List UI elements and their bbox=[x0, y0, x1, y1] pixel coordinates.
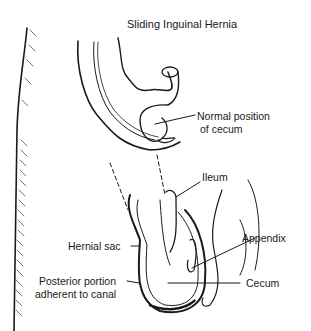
label-appendix: Appendix bbox=[242, 232, 286, 244]
label-hernial-sac: Hernial sac bbox=[68, 240, 121, 252]
diagram-title: Sliding Inguinal Hernia bbox=[127, 18, 237, 30]
abdominal-wall-line bbox=[14, 28, 27, 331]
label-adherent-to-canal: adherent to canal bbox=[35, 288, 116, 300]
diagram-canvas: Sliding Inguinal Hernia Normal position … bbox=[0, 0, 311, 331]
label-of-cecum: of cecum bbox=[200, 123, 243, 135]
abdominal-wall-hatching bbox=[16, 30, 36, 316]
label-posterior-portion: Posterior portion bbox=[39, 275, 116, 287]
label-normal-position: Normal position bbox=[197, 110, 270, 122]
label-ileum: Ileum bbox=[202, 171, 228, 183]
label-cecum: Cecum bbox=[246, 277, 279, 289]
